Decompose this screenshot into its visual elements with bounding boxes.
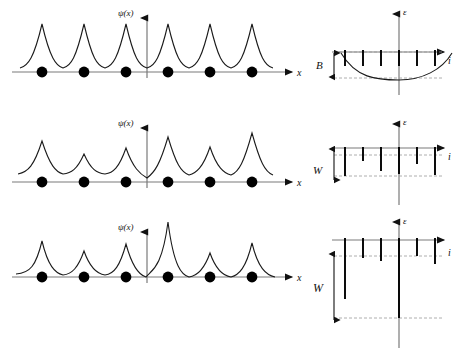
lattice-site-dot: [79, 272, 90, 283]
i-axis-label: i: [448, 151, 451, 162]
psi-axis-label: ψ(x): [118, 118, 134, 128]
epsilon-axis-label: ε: [403, 7, 407, 17]
energy-levels: [345, 238, 435, 318]
lattice-site-dot: [121, 272, 132, 283]
row-weak-disorder-wavefunction-panel: ψ(x) x: [12, 118, 302, 188]
figure-canvas: ψ(x) x ε i B: [0, 0, 470, 358]
row-strong-disorder-wavefunction-panel: ψ(x) x: [12, 222, 302, 283]
lattice-site-dot: [121, 177, 132, 188]
disorder-width-label-W: W: [313, 281, 324, 295]
lattice-site-dot: [247, 67, 258, 78]
i-axis-label: i: [448, 247, 451, 258]
wavefunction-curve: [16, 222, 275, 277]
row-extended-energy-panel: ε i B: [316, 7, 452, 95]
lattice-site-dot: [247, 272, 258, 283]
wavefunction-curve: [18, 133, 273, 178]
row-weak-disorder-energy-panel: ε i W: [313, 117, 451, 205]
lattice-site-dot: [247, 177, 258, 188]
lattice-site-dot: [79, 67, 90, 78]
x-axis-label: x: [296, 67, 302, 78]
lattice-site-dot: [163, 67, 174, 78]
psi-axis-label: ψ(x): [118, 222, 134, 232]
lattice-site-dot: [79, 177, 90, 188]
lattice-site-dot: [37, 272, 48, 283]
row-extended-wavefunction-panel: ψ(x) x: [12, 8, 302, 78]
lattice-site-dot: [205, 177, 216, 188]
x-axis-label: x: [296, 177, 302, 188]
lattice-site-dot: [205, 67, 216, 78]
lattice-site-dot: [121, 67, 132, 78]
lattice-site-dot: [37, 67, 48, 78]
psi-axis-label: ψ(x): [118, 8, 134, 18]
lattice-site-dot: [163, 177, 174, 188]
energy-levels: [345, 147, 435, 176]
bandwidth-label-B: B: [316, 59, 323, 71]
epsilon-axis-label: ε: [403, 117, 407, 127]
lattice-site-dot: [205, 272, 216, 283]
lattice-site-dot: [37, 177, 48, 188]
x-axis-label: x: [296, 272, 302, 283]
lattice-site-dot: [163, 272, 174, 283]
epsilon-axis-label: ε: [403, 216, 407, 226]
figure-anderson-localization: ψ(x) x ε i B: [0, 0, 470, 358]
disorder-width-label-W: W: [313, 164, 323, 176]
row-strong-disorder-energy-panel: ε i W: [313, 216, 451, 348]
